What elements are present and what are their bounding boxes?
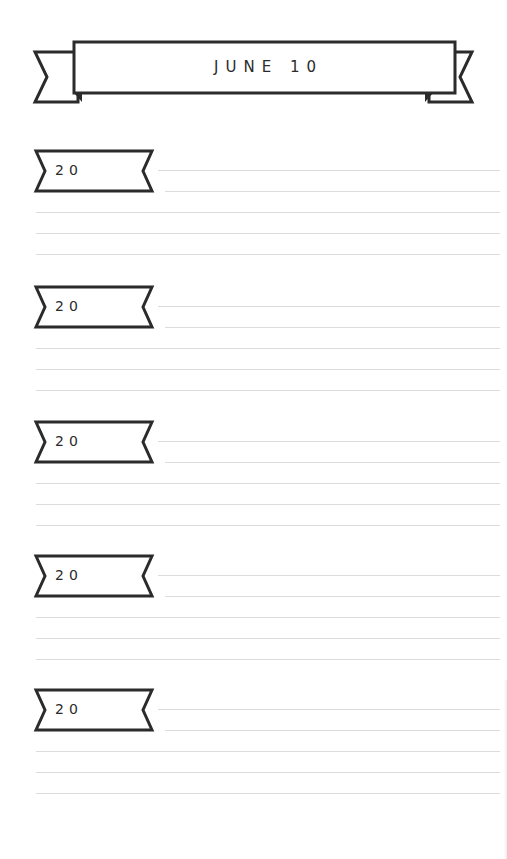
journal-entry-section: 20 — [0, 285, 507, 415]
year-prefix-label: 20 — [55, 149, 83, 191]
writing-line[interactable] — [158, 441, 500, 442]
year-tag-ribbon-icon — [33, 420, 155, 464]
writing-line[interactable] — [36, 525, 500, 526]
year-prefix-label: 20 — [55, 420, 83, 462]
writing-line[interactable] — [36, 254, 500, 255]
writing-line[interactable] — [165, 596, 500, 597]
writing-line[interactable] — [158, 709, 500, 710]
journal-entry-section: 20 — [0, 688, 507, 818]
writing-line[interactable] — [36, 348, 500, 349]
writing-line[interactable] — [165, 462, 500, 463]
writing-line[interactable] — [36, 751, 500, 752]
writing-line[interactable] — [36, 638, 500, 639]
writing-line[interactable] — [36, 504, 500, 505]
writing-line[interactable] — [158, 306, 500, 307]
year-prefix-label: 20 — [55, 285, 83, 327]
writing-line[interactable] — [36, 793, 500, 794]
journal-entry-section: 20 — [0, 149, 507, 279]
page-title: JUNE 10 — [75, 41, 455, 93]
writing-line[interactable] — [36, 390, 500, 391]
writing-line[interactable] — [158, 170, 500, 171]
writing-line[interactable] — [36, 772, 500, 773]
writing-line[interactable] — [36, 233, 500, 234]
writing-line[interactable] — [165, 191, 500, 192]
year-tag-ribbon-icon — [33, 285, 155, 329]
writing-line[interactable] — [36, 212, 500, 213]
writing-line[interactable] — [36, 369, 500, 370]
journal-entry-section: 20 — [0, 420, 507, 550]
year-prefix-label: 20 — [55, 688, 83, 730]
writing-line[interactable] — [165, 327, 500, 328]
year-tag-ribbon-icon — [33, 688, 155, 732]
year-tag-ribbon-icon — [33, 554, 155, 598]
journal-entry-section: 20 — [0, 554, 507, 684]
writing-line[interactable] — [36, 659, 500, 660]
writing-line[interactable] — [165, 730, 500, 731]
writing-line[interactable] — [158, 575, 500, 576]
writing-line[interactable] — [36, 617, 500, 618]
date-banner: JUNE 10 — [0, 0, 507, 120]
year-tag-ribbon-icon — [33, 149, 155, 193]
year-prefix-label: 20 — [55, 554, 83, 596]
writing-line[interactable] — [36, 483, 500, 484]
